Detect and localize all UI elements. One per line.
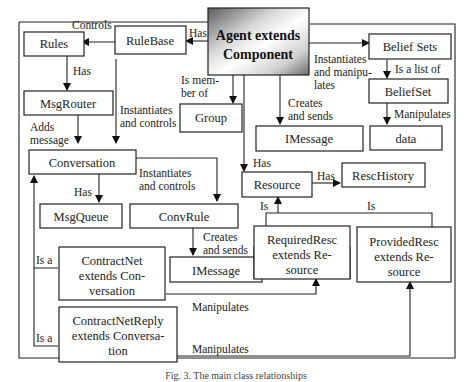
- node-rulebase-label: RuleBase: [126, 34, 174, 48]
- node-providedresc-label-1: ProvidedResc: [369, 235, 439, 249]
- node-resource-label: Resource: [254, 178, 301, 192]
- edge-label-requiredresc-resource: Is: [260, 200, 269, 212]
- node-group[interactable]: Group: [180, 104, 242, 132]
- node-contractnet-label-1: ContractNet: [81, 254, 143, 268]
- node-providedresc[interactable]: ProvidedResc extends Re- source: [357, 227, 451, 282]
- node-requiredresc-label-3: source: [286, 263, 319, 277]
- node-convrule[interactable]: ConvRule: [130, 204, 238, 228]
- edge-label-msgrouter-conversation-1: Adds: [30, 121, 55, 133]
- node-contractnet-label-2: extends Con-: [79, 269, 145, 283]
- edge-label-providedresc-resource: Is: [367, 200, 376, 212]
- node-providedresc-label-2: extends Re-: [374, 250, 433, 264]
- node-data[interactable]: data: [370, 126, 442, 150]
- edge-label-agent-beliefsets-1: Instantiates: [314, 53, 367, 65]
- node-msgqueue[interactable]: MsgQueue: [40, 204, 122, 228]
- node-imessage-2[interactable]: IMessage: [170, 257, 262, 282]
- node-requiredresc-label-2: extends Re-: [272, 248, 331, 262]
- edge-label-rulebase-rules: Controls: [72, 19, 112, 31]
- edge-label-rules-msgrouter: Has: [73, 65, 91, 77]
- node-msgrouter-label: MsgRouter: [40, 97, 97, 111]
- node-contractnetreply-label-2: extends Conversa-: [72, 329, 165, 343]
- node-group-label: Group: [195, 111, 227, 125]
- edge-label-agent-group-2: ber of: [181, 87, 208, 99]
- edge-label-msgrouter-conversation-2: message: [30, 134, 69, 147]
- node-agent-label-2: Component: [223, 47, 293, 62]
- node-requiredresc[interactable]: RequiredResc extends Re- source: [254, 226, 350, 279]
- node-contractnetreply-label-1: ContractNetReply: [73, 314, 165, 328]
- node-imessage-1[interactable]: IMessage: [256, 126, 363, 151]
- node-conversation[interactable]: Conversation: [29, 150, 136, 174]
- node-msgrouter[interactable]: MsgRouter: [24, 91, 113, 115]
- edge-label-agent-beliefsets-3: lates: [314, 79, 336, 91]
- node-conversation-label: Conversation: [49, 156, 116, 170]
- node-resource[interactable]: Resource: [242, 172, 312, 197]
- edge-label-conversation-msgqueue: Has: [74, 186, 92, 198]
- edge-label-beliefset-data: Manipulates: [394, 108, 451, 121]
- node-beliefsets-label: Belief Sets: [383, 40, 438, 54]
- edge-label-agent-group-1: Is mem-: [181, 74, 219, 86]
- node-beliefset[interactable]: BeliefSet: [369, 79, 448, 103]
- node-rules[interactable]: Rules: [24, 32, 84, 56]
- node-imessage-2-label: IMessage: [192, 264, 240, 278]
- edge-label-contractnetreply-providedresc: Manipulates: [192, 343, 249, 356]
- node-contractnetreply-label-3: tion: [108, 344, 128, 358]
- edge-label-contractnetreply-conversation: Is a: [36, 332, 52, 344]
- edge-label-contractnet-requiredresc: Manipulates: [192, 301, 249, 314]
- edge-label-agent-imessage-1: Creates: [288, 97, 323, 109]
- node-contractnetreply[interactable]: ContractNetReply extends Conversa- tion: [59, 307, 177, 362]
- edge-label-convrule-imessage-2: and sends: [203, 244, 249, 256]
- node-convrule-label: ConvRule: [159, 210, 210, 224]
- node-providedresc-label-3: source: [388, 265, 421, 279]
- node-reschistory-label: RescHistory: [352, 169, 415, 183]
- node-imessage-1-label: IMessage: [285, 132, 333, 146]
- node-contractnet[interactable]: ContractNet extends Con- versation: [59, 247, 165, 300]
- edge-label-contractnet-conversation: Is a: [36, 254, 52, 266]
- node-reschistory[interactable]: RescHistory: [342, 163, 425, 187]
- class-diagram: Agent extends Component RuleBase Rules M…: [0, 0, 473, 382]
- node-beliefset-label: BeliefSet: [385, 85, 432, 99]
- node-beliefsets[interactable]: Belief Sets: [369, 34, 451, 59]
- node-rules-label: Rules: [40, 37, 69, 51]
- node-agent[interactable]: Agent extends Component: [208, 8, 309, 75]
- node-requiredresc-label-1: RequiredResc: [267, 233, 338, 247]
- node-msgqueue-label: MsgQueue: [54, 210, 109, 224]
- edge-label-agent-resource: Has: [253, 157, 271, 169]
- edge-label-rulebase-conversation-1: Instantiates: [120, 104, 173, 116]
- node-contractnet-label-3: versation: [89, 284, 136, 298]
- figure-caption: Fig. 3. The main class relationships: [165, 370, 307, 381]
- node-rulebase[interactable]: RuleBase: [115, 26, 186, 54]
- edge-label-resource-reschistory: Has: [317, 170, 335, 182]
- edge-label-beliefsets-beliefset: Is a list of: [395, 63, 441, 75]
- edge-label-conversation-convrule-2: and controls: [139, 180, 196, 192]
- node-agent-label-1: Agent extends: [216, 28, 301, 43]
- edge-label-agent-rulebase: Has: [189, 27, 207, 39]
- node-data-label: data: [396, 132, 417, 146]
- edge-label-conversation-convrule-1: Instantiates: [139, 167, 192, 179]
- edge-label-rulebase-conversation-2: and controls: [120, 117, 177, 129]
- edge-label-agent-imessage-2: and sends: [288, 110, 334, 122]
- edge-label-convrule-imessage-1: Creates: [203, 231, 238, 243]
- edge-label-agent-beliefsets-2: and manipu-: [314, 66, 372, 79]
